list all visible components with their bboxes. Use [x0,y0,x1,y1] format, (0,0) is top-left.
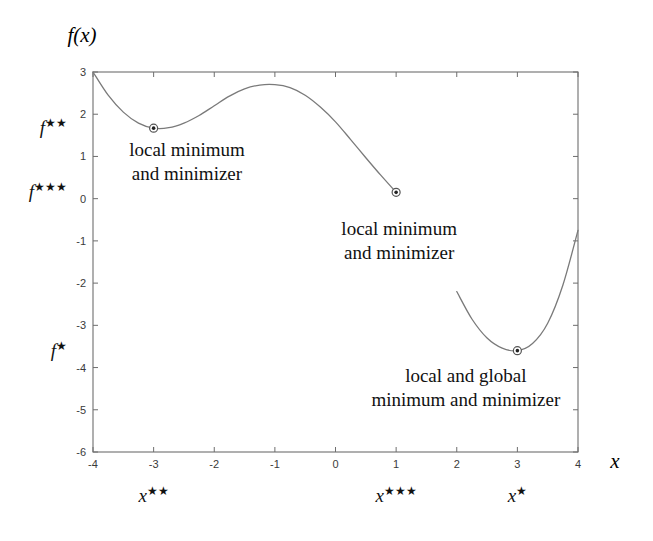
annotation-left-line: local minimum [129,139,245,160]
x-tick-label: 1 [393,458,399,470]
annotation-right-line: minimum and minimizer [371,389,561,410]
function-minima-figure: -4-3-2-101234-6-5-4-3-2-10123local minim… [0,0,653,541]
curve-branch-2 [457,230,578,351]
minimum-marker-dot-local-minimum-left [152,126,156,130]
x-tick-label: -3 [149,458,159,470]
x-tick-label: -2 [209,458,219,470]
annotation-middle-line: and minimizer [344,242,455,263]
x-tick-label: 4 [575,458,581,470]
minimum-marker-dot-global-minimum-right [516,349,520,353]
f-triple-star: f★★★ [29,180,67,202]
minimum-marker-dot-local-minimum-middle [394,191,398,195]
x-tick-label: 0 [332,458,338,470]
y-tick-label: 0 [80,193,86,205]
y-axis-label: f(x) [67,23,96,47]
y-tick-label: -4 [76,362,86,374]
x-tick-label: 2 [454,458,460,470]
y-tick-label: 3 [80,66,86,78]
y-tick-label: 1 [80,150,86,162]
y-tick-label: -1 [76,235,86,247]
y-tick-label: 2 [80,108,86,120]
annotation-middle-line: local minimum [341,218,457,239]
y-tick-label: -3 [76,319,86,331]
x-axis-label: x [609,449,620,473]
x-double-star: x★★ [137,484,168,506]
x-tick-label: 3 [514,458,520,470]
y-tick-label: -6 [76,446,86,458]
f-double-star: f★★ [40,116,67,138]
annotation-left-line: and minimizer [132,163,243,184]
x-tick-label: -4 [88,458,98,470]
x-single-star: x★ [507,484,527,506]
y-tick-label: -5 [76,404,86,416]
x-tick-label: -1 [270,458,280,470]
y-tick-label: -2 [76,277,86,289]
x-triple-star: x★★★ [374,484,416,506]
f-single-star: f★ [51,339,67,361]
annotation-right-line: local and global [405,365,526,386]
